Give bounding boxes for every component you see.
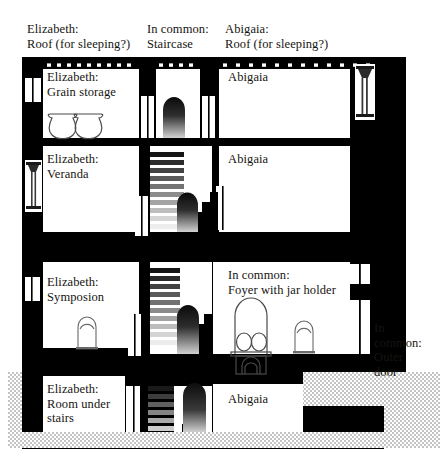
right-wall-column: [355, 64, 375, 120]
label-foyer: In common: Foyer with jar holder: [228, 268, 336, 297]
left-wall-column: [25, 160, 42, 212]
label-abigaia-lower: Abigaia: [228, 392, 268, 407]
label-roof-middle: In common: Staircase: [147, 22, 209, 51]
label-symposion: Elizabeth: Symposion: [47, 275, 104, 304]
label-roof-right: Abigaia: Roof (for sleeping?): [225, 22, 328, 51]
label-outer-door: In common: Outer door: [374, 321, 422, 379]
right-wall-openings: [350, 264, 370, 354]
architectural-section-diagram: Elizabeth: Roof (for sleeping?) In commo…: [0, 0, 448, 473]
label-roof-left: Elizabeth: Roof (for sleeping?): [27, 22, 130, 51]
left-wall-window: [25, 78, 41, 102]
label-abigaia-upper-2: Abigaia: [228, 152, 268, 167]
label-veranda: Elizabeth: Veranda: [47, 152, 99, 181]
label-abigaia-upper-1: Abigaia: [228, 70, 268, 85]
left-wall-window-symposion: [25, 277, 40, 301]
label-room-under-stairs: Elizabeth: Room under stairs: [47, 382, 110, 426]
label-grain-storage: Elizabeth: Grain storage: [47, 70, 116, 99]
